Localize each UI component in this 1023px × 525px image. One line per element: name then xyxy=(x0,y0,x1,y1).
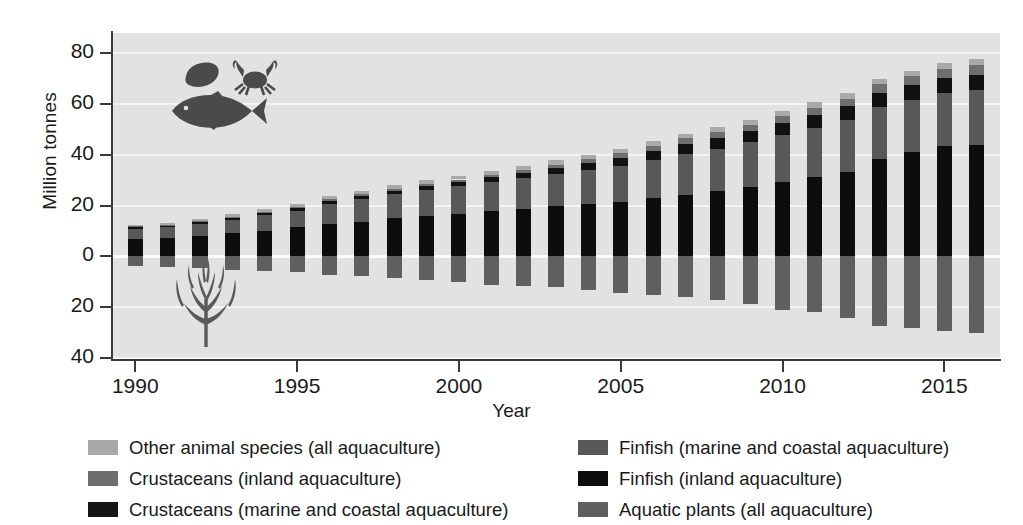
bar-segment-crustaceans_inland xyxy=(128,226,143,227)
bar-segment-aquatic_plants xyxy=(387,256,402,278)
bar-segment-finfish_marine xyxy=(451,186,466,213)
y-tick-label: 80 xyxy=(32,39,94,63)
y-tick-mark xyxy=(100,52,111,54)
bar-segment-crustaceans_inland xyxy=(904,76,919,85)
bar-column xyxy=(419,33,434,358)
y-tick-label: 40 xyxy=(32,141,94,165)
bar-segment-aquatic_plants xyxy=(743,256,758,304)
bar-segment-finfish_marine xyxy=(581,170,596,204)
bar-column xyxy=(646,33,661,358)
bar-column xyxy=(710,33,725,358)
bar-segment-finfish_inland xyxy=(160,238,175,257)
bar-segment-finfish_inland xyxy=(743,187,758,257)
bar-column xyxy=(322,33,337,358)
bar-segment-finfish_inland xyxy=(516,209,531,256)
bar-segment-finfish_marine xyxy=(257,215,272,230)
bar-segment-aquatic_plants xyxy=(354,256,369,276)
y-axis-line xyxy=(111,31,113,360)
bar-segment-finfish_marine xyxy=(613,166,628,202)
bar-column xyxy=(969,33,984,358)
x-tick-mark xyxy=(782,361,784,372)
bar-segment-finfish_marine xyxy=(387,194,402,218)
bar-segment-crustaceans_inland xyxy=(387,189,402,191)
bar-segment-other_animals xyxy=(387,185,402,189)
bar-segment-finfish_inland xyxy=(128,239,143,257)
legend-item[interactable]: Crustaceans (inland aquaculture) xyxy=(88,463,558,494)
bar-column xyxy=(743,33,758,358)
legend-swatch xyxy=(88,471,118,486)
bar-segment-other_animals xyxy=(710,127,725,132)
legend-item[interactable]: Crustaceans (marine and coastal aquacult… xyxy=(88,494,558,525)
bar-segment-aquatic_plants xyxy=(613,256,628,293)
bar-segment-finfish_marine xyxy=(548,174,563,207)
bar-segment-other_animals xyxy=(354,191,369,194)
bar-segment-other_animals xyxy=(290,204,305,207)
legend-label: Crustaceans (marine and coastal aquacult… xyxy=(129,499,508,521)
bar-segment-crustaceans_inland xyxy=(192,221,207,222)
bar-segment-finfish_inland xyxy=(451,214,466,257)
bar-segment-other_animals xyxy=(807,102,822,107)
bar-segment-aquatic_plants xyxy=(160,256,175,266)
bar-segment-finfish_marine xyxy=(872,107,887,159)
bar-segment-other_animals xyxy=(872,79,887,85)
bar-segment-finfish_marine xyxy=(743,142,758,186)
bar-segment-aquatic_plants xyxy=(225,256,240,269)
bar-segment-crustaceans_inland xyxy=(743,125,758,131)
bar-segment-finfish_inland xyxy=(387,218,402,256)
bar-segment-other_animals xyxy=(937,63,952,69)
bar-segment-finfish_inland xyxy=(354,222,369,257)
bar-segment-crustaceans_inland xyxy=(160,225,175,226)
bar-column xyxy=(354,33,369,358)
bar-segment-aquatic_plants xyxy=(937,256,952,330)
bar-segment-finfish_marine xyxy=(840,120,855,172)
bar-segment-crustaceans_marine xyxy=(128,227,143,229)
x-tick-mark xyxy=(458,361,460,372)
x-tick-label: 1990 xyxy=(90,374,180,398)
bar-segment-crustaceans_inland xyxy=(225,217,240,218)
bar-segment-other_animals xyxy=(775,111,790,116)
bar-segment-crustaceans_marine xyxy=(904,85,919,99)
bar-segment-aquatic_plants xyxy=(322,256,337,274)
bar-segment-crustaceans_marine xyxy=(646,151,661,160)
y-tick-label: 20 xyxy=(32,192,94,216)
bar-segment-finfish_marine xyxy=(678,154,693,195)
bar-segment-other_animals xyxy=(451,176,466,180)
bar-segment-crustaceans_marine xyxy=(419,186,434,190)
bar-segment-other_animals xyxy=(904,71,919,77)
fish-motif-icon xyxy=(168,89,270,131)
bar-segment-crustaceans_inland xyxy=(451,180,466,182)
bar-segment-crustaceans_marine xyxy=(484,177,499,182)
bar-segment-finfish_marine xyxy=(775,135,790,182)
bar-segment-other_animals xyxy=(225,214,240,216)
bar-segment-other_animals xyxy=(678,134,693,139)
bar-column xyxy=(290,33,305,358)
legend-item[interactable]: Aquatic plants (all aquaculture) xyxy=(578,494,1023,525)
bar-segment-finfish_inland xyxy=(937,146,952,256)
bar-segment-finfish_marine xyxy=(225,220,240,233)
bar-segment-finfish_inland xyxy=(872,159,887,257)
bar-segment-other_animals xyxy=(646,141,661,146)
bar-segment-finfish_inland xyxy=(613,202,628,257)
legend-item[interactable]: Finfish (inland aquaculture) xyxy=(578,463,1023,494)
bar-segment-crustaceans_marine xyxy=(581,163,596,170)
bar-segment-finfish_inland xyxy=(290,227,305,256)
bar-column xyxy=(451,33,466,358)
bar-column xyxy=(192,33,207,358)
legend-item[interactable]: Other animal species (all aquaculture) xyxy=(88,432,558,463)
bar-segment-crustaceans_inland xyxy=(354,194,369,196)
bar-segment-aquatic_plants xyxy=(484,256,499,284)
bar-segment-finfish_marine xyxy=(128,229,143,239)
bar-segment-finfish_inland xyxy=(225,233,240,257)
bar-segment-finfish_marine xyxy=(354,199,369,222)
bar-segment-crustaceans_marine xyxy=(322,201,337,204)
bar-segment-crustaceans_marine xyxy=(225,217,240,219)
bar-segment-crustaceans_inland xyxy=(419,184,434,186)
bar-column xyxy=(160,33,175,358)
bar-segment-other_animals xyxy=(969,59,984,65)
bar-segment-aquatic_plants xyxy=(419,256,434,279)
legend-item[interactable]: Finfish (marine and coastal aquaculture) xyxy=(578,432,1023,463)
legend-label: Finfish (inland aquaculture) xyxy=(619,468,842,490)
bar-segment-crustaceans_marine xyxy=(192,222,207,224)
bar-column xyxy=(613,33,628,358)
bar-segment-crustaceans_marine xyxy=(969,75,984,90)
